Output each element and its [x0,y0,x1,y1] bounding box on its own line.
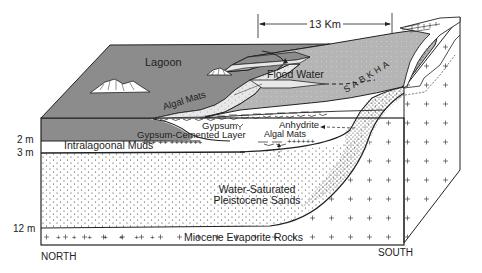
scale-label: 13 Km [309,18,341,30]
label-algal-mats-section: Algal Mats [264,129,307,139]
miocene-plus-row: +++++++ [56,233,166,242]
label-lagoon: Lagoon [145,56,182,68]
label-gypsum-cemented: Gypsum-Cemented Layer [137,129,246,140]
label-intralagoonal-muds: Intralagoonal Muds [64,139,153,151]
direction-south: SOUTH [378,247,413,258]
depth-3m: 3 m [17,147,34,158]
depth-12m: 12 m [13,223,35,234]
final-diagram: 13 Km +++ ++ +++++++ ++++++ Lagoon Flood… [0,0,482,273]
label-flood-water: Flood Water [267,68,324,80]
label-pleistocene-2: Pleistocene Sands [214,194,301,206]
label-miocene: Miocene Evaporite Rocks [184,231,303,243]
direction-north: NORTH [41,251,76,262]
depth-2m: 2 m [17,134,34,145]
